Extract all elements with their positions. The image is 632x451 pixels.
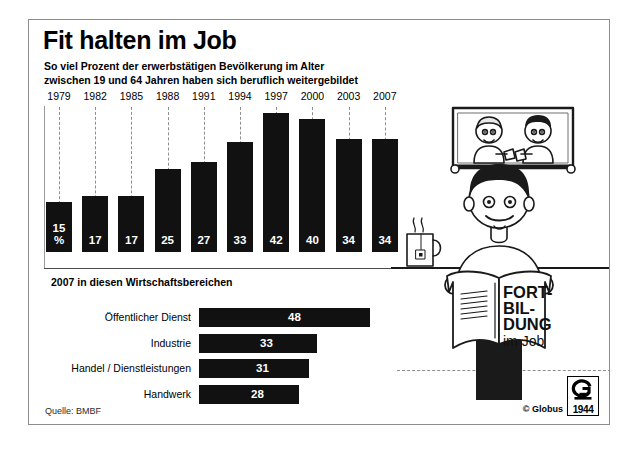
timeseries-bar-chart: 1979198219851988199119941997200020032007… <box>44 90 409 252</box>
book-text-line-4: im Job <box>503 333 544 349</box>
copyright-label: © Globus <box>523 404 563 414</box>
infographic-panel: Fit halten im Job So viel Prozent der er… <box>28 19 610 425</box>
bar-1982: 17 <box>82 196 108 252</box>
sector-row: Industrie33 <box>199 334 317 353</box>
bar-value-1979: 15 % <box>46 222 72 246</box>
bar-value-1988: 25 <box>155 234 181 246</box>
year-label-1985: 1985 <box>113 90 149 102</box>
page-title: Fit halten im Job <box>43 26 237 55</box>
bar-value-1997: 42 <box>263 234 289 246</box>
sector-label: Handwerk <box>144 385 191 404</box>
bar-1997: 42 <box>263 113 289 252</box>
year-label-2000: 2000 <box>294 90 330 102</box>
bar-1994: 33 <box>227 142 253 252</box>
year-label-1982: 1982 <box>77 90 113 102</box>
sector-label: Handel / Dienstleistungen <box>71 359 191 378</box>
source-note: Quelle: BMBF <box>45 406 101 416</box>
tea-mug <box>407 218 441 266</box>
sector-bar <box>199 359 309 378</box>
sector-row: Öffentlicher Dienst48 <box>199 308 370 327</box>
bar-1985: 17 <box>118 196 144 252</box>
year-label-1991: 1991 <box>186 90 222 102</box>
book-text-line-3: DUNG <box>503 315 552 333</box>
year-axis: 1979198219851988199119941997200020032007 <box>44 90 409 106</box>
bar-1979: 15 % <box>46 202 72 252</box>
framed-picture-two-people <box>451 108 575 173</box>
year-label-1994: 1994 <box>222 90 258 102</box>
sector-bar <box>199 334 317 353</box>
bar-group: 15 %171725273342403434 <box>44 106 409 252</box>
subtitle-line-2: zwischen 19 und 64 Jahren haben sich ber… <box>44 73 404 87</box>
sector-bar <box>199 385 299 404</box>
sector-value: 33 <box>260 334 273 353</box>
bar-2000: 40 <box>299 119 325 252</box>
sector-row: Handel / Dienstleistungen31 <box>199 359 309 378</box>
sector-row: Handwerk28 <box>199 385 299 404</box>
sector-bar <box>199 308 370 327</box>
bar-value-2003: 34 <box>336 234 362 246</box>
bar-value-1994: 33 <box>227 234 253 246</box>
illustration-svg: FORT- BIL- DUNG im Job <box>391 80 610 400</box>
year-label-1988: 1988 <box>150 90 186 102</box>
bar-value-2000: 40 <box>299 234 325 246</box>
sector-value: 28 <box>251 385 264 404</box>
year-label-1979: 1979 <box>41 90 77 102</box>
sector-value: 31 <box>256 359 269 378</box>
bar-value-1982: 17 <box>82 234 108 246</box>
subtitle-line-1: So viel Prozent der erwerbstätigen Bevöl… <box>44 59 404 73</box>
year-label-1997: 1997 <box>258 90 294 102</box>
section-2-title: 2007 in diesen Wirtschaftsbereichen <box>51 276 232 288</box>
page-subtitle: So viel Prozent der erwerbstätigen Bevöl… <box>44 59 404 87</box>
bar-value-1985: 17 <box>118 234 144 246</box>
sector-label: Industrie <box>151 334 191 353</box>
bar-1991: 27 <box>191 162 217 252</box>
sector-label: Öffentlicher Dienst <box>105 308 191 327</box>
globus-year: 1944 <box>568 404 598 415</box>
bar-2003: 34 <box>336 139 362 252</box>
bar-1988: 25 <box>155 169 181 252</box>
bar-value-1991: 27 <box>191 234 217 246</box>
sector-value: 48 <box>288 308 301 327</box>
year-label-2003: 2003 <box>331 90 367 102</box>
illustration: FORT- BIL- DUNG im Job <box>391 80 610 400</box>
